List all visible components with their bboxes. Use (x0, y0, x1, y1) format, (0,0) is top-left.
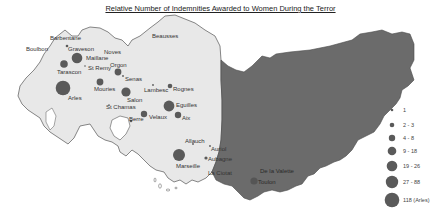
legend-marker-6 (386, 176, 398, 188)
legend-marker-1 (391, 109, 394, 112)
label-beausses: Beausses (152, 33, 178, 39)
label-arles: Arles (68, 95, 82, 101)
legend-label-1: 1 (403, 107, 406, 113)
marker-marseille (173, 149, 185, 161)
region-var (212, 30, 414, 200)
label-marseille: Marseille (176, 163, 201, 169)
label-st-remy: St Remy (88, 65, 111, 71)
label-orgon: Orgon (110, 62, 127, 68)
label-st-chamas: St Chamas (106, 104, 136, 110)
label-senas: Senas (125, 76, 142, 82)
label-maillane: Maillane (86, 55, 109, 61)
island (166, 189, 170, 191)
marker-arles (56, 81, 71, 96)
label-barbentane: Barbentane (50, 35, 82, 41)
label-salon: Salon (127, 97, 142, 103)
marker-st-remy (84, 65, 86, 67)
label-graveson: Graveson (68, 46, 94, 52)
marker-aix (175, 112, 181, 118)
legend-marker-3 (389, 135, 395, 141)
label-rognes: Rognes (173, 86, 194, 92)
legend-marker-2 (390, 123, 395, 128)
label-la-ciotat: La Ciotat (208, 170, 232, 176)
marker-toulon (250, 177, 257, 184)
legend-label-6: 27 - 88 (403, 179, 420, 185)
legend-marker-5 (387, 161, 398, 172)
island (175, 187, 177, 189)
island (154, 178, 156, 182)
legend-label-5: 19 - 26 (403, 163, 420, 169)
marker-salon (121, 87, 130, 96)
marker-tarascon (60, 60, 68, 68)
island (159, 184, 162, 188)
marker-eguilles (164, 101, 175, 112)
label-auriol: Auriol (211, 146, 226, 152)
label-allauch: Allauch (185, 138, 205, 144)
region-bouches-du-rhone (18, 15, 222, 184)
label-de-la-valette: De la Valette (260, 168, 295, 174)
label-tarascon: Tarascon (57, 69, 81, 75)
legend-label-2: 2 - 3 (403, 122, 414, 128)
marker-rognes (168, 84, 173, 89)
label-aubagne: Aubagne (208, 156, 233, 162)
marker-mouries (97, 79, 104, 86)
legend: 1 2 - 3 4 - 8 9 - 18 19 - 26 27 - 88 118… (385, 107, 430, 207)
label-velaux: Velaux (149, 114, 167, 120)
label-mouries: Mouries (94, 86, 115, 92)
legend-marker-4 (388, 147, 397, 156)
label-toulon: Toulon (258, 179, 276, 185)
marker-maillane (72, 53, 83, 64)
label-lambesc: Lambesc (144, 87, 168, 93)
legend-marker-7 (385, 193, 400, 208)
label-boulbon: Boulbon (26, 46, 48, 52)
marker-lambesc (152, 84, 154, 86)
label-aix: Aix (182, 115, 190, 121)
marker-senas (122, 75, 124, 77)
label-berre: Berre (129, 116, 144, 122)
marker-orgon (115, 69, 122, 76)
legend-label-4: 9 - 18 (403, 148, 417, 154)
label-eguilles: Eguilles (176, 102, 197, 108)
legend-label-7: 118 (Arles) (403, 197, 430, 203)
map-canvas: Barbentane Boulbon Graveson Noves Mailla… (0, 0, 441, 218)
legend-label-3: 4 - 8 (403, 135, 414, 141)
